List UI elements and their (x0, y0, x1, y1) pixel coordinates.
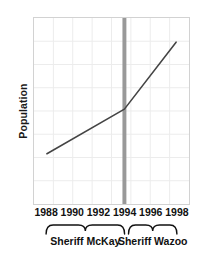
group-label-0: Sheriff McKay (50, 235, 120, 247)
x-tick-label-1990: 1990 (61, 206, 84, 218)
x-tick-label-1994: 1994 (113, 206, 136, 218)
population-line-chart: Population 198819901992199419961998 Sher… (0, 0, 207, 258)
plot-area (33, 17, 190, 205)
population-series-line (34, 18, 189, 204)
y-axis-title: Population (17, 83, 29, 138)
x-tick-label-1996: 1996 (139, 206, 162, 218)
y-axis-title-wrap: Population (14, 17, 32, 205)
x-tick-label-1988: 1988 (34, 206, 57, 218)
x-tick-label-1992: 1992 (87, 206, 110, 218)
x-axis-tick-labels: 198819901992199419961998 (0, 206, 207, 222)
group-labels: Sheriff McKaySheriff Wazoo (0, 235, 207, 253)
group-label-1: Sheriff Wazoo (118, 235, 188, 247)
group-braces (0, 222, 207, 236)
x-tick-label-1998: 1998 (165, 206, 188, 218)
